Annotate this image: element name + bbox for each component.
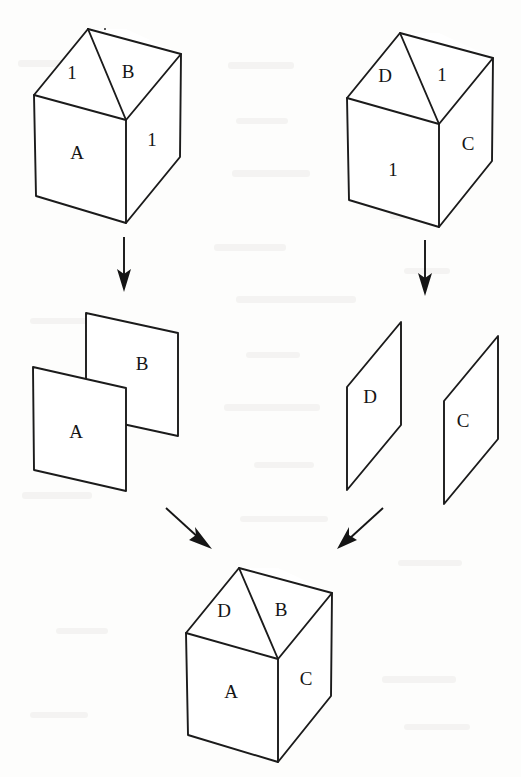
cube-result-label-top-right: B — [275, 599, 288, 620]
arrow-right-diag-head — [337, 527, 357, 549]
cube-result: D B A C — [186, 568, 332, 762]
cube-tr-label-front-right: C — [462, 133, 475, 154]
panel-d: D — [347, 322, 401, 490]
cube-tl-label-top-right: B — [122, 61, 135, 82]
cube-top-right: D 1 1 C — [347, 33, 493, 227]
arrow-left-diag — [166, 508, 212, 549]
arrow-left-diag-head — [189, 527, 212, 549]
panel-group-left: B A — [33, 313, 178, 491]
cube-tl-label-front-left: A — [70, 142, 84, 163]
cube-tl-label-front-right: 1 — [147, 129, 157, 150]
panel-a-label: A — [69, 421, 83, 442]
panel-d-label: D — [363, 386, 377, 407]
cube-assembly-figure: 1 B A 1 D 1 1 C — [0, 0, 521, 777]
arrow-right-down — [418, 240, 432, 296]
cube-tr-label-front-left: 1 — [388, 159, 398, 180]
cube-result-label-front-left: A — [224, 681, 238, 702]
cube-result-label-front-right: C — [300, 668, 313, 689]
panel-group-right: D C — [347, 322, 498, 504]
cube-tl-label-top-left: 1 — [67, 62, 77, 83]
arrow-right-diag — [337, 508, 383, 549]
cube-result-label-top-left: D — [217, 600, 231, 621]
panel-b-label: B — [136, 353, 149, 374]
figure-page: 1 B A 1 D 1 1 C — [0, 0, 521, 777]
cube-tr-label-top-right: 1 — [437, 64, 447, 85]
cube-tr-label-top-left: D — [378, 65, 392, 86]
panel-c: C — [444, 336, 498, 504]
cube-top-left: 1 B A 1 — [34, 29, 181, 223]
arrow-left-down — [117, 237, 131, 292]
panel-a: A — [33, 367, 126, 491]
panel-c-label: C — [457, 410, 470, 431]
